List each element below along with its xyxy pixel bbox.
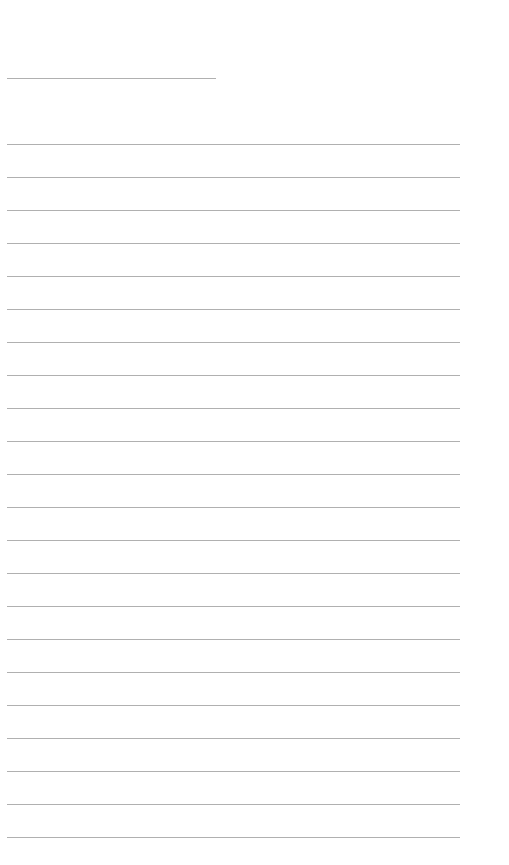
ruled-line [7, 540, 460, 541]
ruled-line [7, 639, 460, 640]
ruled-line [7, 375, 460, 376]
ruled-line [7, 309, 460, 310]
ruled-line [7, 210, 460, 211]
ruled-line [7, 573, 460, 574]
header-name-line [7, 78, 216, 79]
ruled-line [7, 276, 460, 277]
ruled-line [7, 738, 460, 739]
ruled-line [7, 342, 460, 343]
ruled-line [7, 705, 460, 706]
ruled-line [7, 441, 460, 442]
ruled-line [7, 408, 460, 409]
ruled-line [7, 474, 460, 475]
ruled-line [7, 177, 460, 178]
ruled-line [7, 837, 460, 838]
ruled-line [7, 243, 460, 244]
ruled-line [7, 144, 460, 145]
ruled-line [7, 672, 460, 673]
ruled-line [7, 771, 460, 772]
ruled-line [7, 606, 460, 607]
ruled-line [7, 804, 460, 805]
ruled-line [7, 507, 460, 508]
